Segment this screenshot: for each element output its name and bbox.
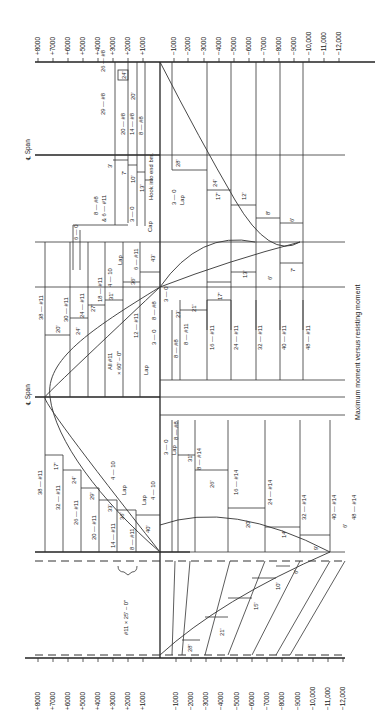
svg-text:9': 9' bbox=[313, 546, 319, 550]
tick-label: −10,000 bbox=[309, 686, 316, 710]
svg-text:℄ Span: ℄ Span bbox=[24, 384, 32, 406]
svg-text:20': 20' bbox=[130, 92, 136, 100]
bottom-span-positive bbox=[45, 397, 160, 552]
tick-label: −10,000 bbox=[305, 31, 312, 55]
svg-text:29': 29' bbox=[89, 492, 95, 500]
svg-text:30 — #11: 30 — #11 bbox=[63, 297, 69, 322]
svg-text:8 — #8: 8 — #8 bbox=[151, 301, 157, 320]
svg-text:38 — #11: 38 — #11 bbox=[38, 295, 44, 320]
svg-text:13': 13' bbox=[139, 184, 145, 192]
svg-text:43': 43' bbox=[150, 254, 156, 262]
tick-label: −7000 bbox=[260, 37, 267, 55]
svg-text:32 — #14: 32 — #14 bbox=[301, 494, 307, 520]
negative-moment-curve-mid2 bbox=[160, 240, 255, 287]
svg-text:12 — #11: 12 — #11 bbox=[133, 313, 139, 338]
tick-label: +5000 bbox=[79, 37, 86, 55]
svg-text:10': 10' bbox=[275, 582, 281, 590]
svg-text:32 — #11: 32 — #11 bbox=[257, 325, 263, 350]
svg-text:20': 20' bbox=[245, 520, 251, 528]
svg-text:28': 28' bbox=[175, 159, 181, 167]
tick-label: +4000 bbox=[94, 692, 101, 710]
tick-label: −12,000 bbox=[335, 31, 342, 55]
svg-text:20 — #8: 20 — #8 bbox=[120, 113, 126, 135]
tick-label: −1000 bbox=[170, 37, 177, 55]
svg-text:17': 17' bbox=[217, 292, 223, 300]
svg-text:14': 14' bbox=[281, 530, 287, 538]
svg-text:40 — #11: 40 — #11 bbox=[281, 325, 287, 350]
svg-text:31': 31' bbox=[108, 292, 114, 300]
svg-text:21': 21' bbox=[191, 304, 197, 312]
tick-label: +1000 bbox=[139, 37, 146, 55]
svg-text:23': 23' bbox=[175, 310, 181, 318]
svg-text:12': 12' bbox=[241, 192, 247, 200]
svg-text:6': 6' bbox=[289, 218, 295, 222]
svg-text:6': 6' bbox=[342, 524, 348, 528]
svg-text:17': 17' bbox=[215, 192, 221, 200]
tick-label: −5000 bbox=[230, 37, 237, 55]
figure-caption: Maximum moment versus resisting moment bbox=[354, 285, 362, 420]
svg-text:8 — #8: 8 — #8 bbox=[138, 116, 144, 135]
tick-label: +7000 bbox=[49, 37, 56, 55]
support-labels: 28' 21' 15' 10' 6' bbox=[187, 570, 299, 652]
svg-text:8 — #8: 8 — #8 bbox=[173, 339, 179, 358]
tick-label: −12,000 bbox=[339, 686, 346, 710]
svg-text:24': 24' bbox=[71, 476, 77, 484]
tick-label: −2000 bbox=[187, 692, 194, 710]
middle-span-negative-labels: 8 — #8 8 — #11 16 — #11 24 — #11 32 — #1… bbox=[173, 292, 311, 358]
svg-text:10': 10' bbox=[130, 175, 136, 183]
svg-text:8': 8' bbox=[265, 211, 271, 215]
tick-label: −2000 bbox=[184, 37, 191, 55]
svg-text:Lap: Lap bbox=[117, 255, 123, 265]
svg-text:33': 33' bbox=[107, 504, 113, 512]
tick-label: +8000 bbox=[34, 37, 41, 55]
svg-text:24': 24' bbox=[75, 327, 81, 335]
svg-text:16 — #14: 16 — #14 bbox=[233, 469, 239, 495]
svg-text:18 — #11: 18 — #11 bbox=[97, 277, 103, 302]
tick-label: −9000 bbox=[294, 692, 301, 710]
svg-text:Lap: Lap bbox=[141, 495, 147, 505]
svg-text:16 — #11: 16 — #11 bbox=[209, 325, 215, 350]
svg-text:8 — #11: 8 — #11 bbox=[129, 529, 135, 550]
tick-label: −8000 bbox=[278, 692, 285, 710]
top-span-negative-labels: 28' 24' 17' 12' 8' 6' 13' 6' 7' bbox=[175, 159, 296, 280]
centerline-middle: ℄ Span bbox=[24, 384, 345, 406]
svg-text:13': 13' bbox=[242, 270, 248, 278]
support-lines bbox=[35, 552, 345, 655]
tick-label: −4000 bbox=[217, 692, 224, 710]
svg-text:#11 × 25' – 0": #11 × 25' – 0" bbox=[123, 600, 129, 635]
svg-text:48 — #11: 48 — #11 bbox=[305, 325, 311, 350]
positive-moment-curve-mid bbox=[45, 287, 160, 552]
negative-moment-curve-mid bbox=[160, 242, 300, 287]
tick-label: +8000 bbox=[34, 692, 41, 710]
svg-text:6': 6' bbox=[293, 570, 299, 574]
tick-label: +7000 bbox=[49, 692, 56, 710]
svg-text:24 — #11: 24 — #11 bbox=[79, 293, 85, 318]
bottom-span-negative bbox=[160, 415, 345, 552]
tick-label: +2000 bbox=[124, 37, 131, 55]
svg-text:14 — #8: 14 — #8 bbox=[129, 113, 135, 135]
svg-text:38 — #11: 38 — #11 bbox=[37, 470, 43, 495]
svg-text:4 — 10: 4 — 10 bbox=[107, 268, 113, 287]
svg-text:8 — #14: 8 — #14 bbox=[196, 447, 202, 470]
svg-text:4 — 10: 4 — 10 bbox=[110, 461, 116, 480]
svg-text:Lap: Lap bbox=[121, 485, 127, 495]
svg-text:24': 24' bbox=[121, 71, 127, 79]
tick-label: +5000 bbox=[79, 692, 86, 710]
svg-text:3 — 0: 3 — 0 bbox=[129, 207, 135, 222]
svg-text:17': 17' bbox=[53, 462, 59, 470]
svg-text:26': 26' bbox=[209, 480, 215, 488]
svg-text:3 — 0: 3 — 0 bbox=[163, 440, 169, 455]
svg-text:32 — #11: 32 — #11 bbox=[55, 485, 61, 510]
svg-text:48 — #14: 48 — #14 bbox=[351, 494, 357, 520]
tick-label: +2000 bbox=[124, 692, 131, 710]
svg-text:24 — #14: 24 — #14 bbox=[267, 479, 273, 505]
top-span-negative bbox=[160, 62, 345, 330]
top-axis: +8000 +7000 +6000 +5000 +4000 +3000 +200… bbox=[34, 31, 375, 62]
tick-label: −6000 bbox=[248, 692, 255, 710]
tick-label: −6000 bbox=[245, 37, 252, 55]
svg-text:7': 7' bbox=[290, 268, 296, 272]
tick-label: +3000 bbox=[109, 692, 116, 710]
bottom-span-labels: 38 — #11 32 — #11 26 — #11 20 — #11 14 —… bbox=[37, 440, 177, 635]
svg-text:14 — #11: 14 — #11 bbox=[110, 523, 116, 548]
svg-text:29 — #8: 29 — #8 bbox=[100, 93, 106, 115]
